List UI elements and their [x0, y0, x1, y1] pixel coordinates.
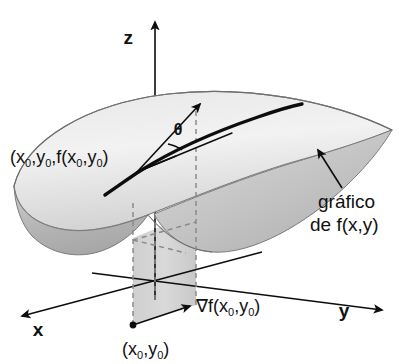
angle-theta-label: θ	[174, 121, 183, 138]
base-point-suffix: )	[163, 339, 169, 359]
gradient-label: ∇f(x0,y0)	[195, 296, 260, 318]
base-point-label: (x0,y0)	[122, 339, 169, 361]
z-axis-label: z	[124, 27, 134, 48]
surface-point-mid1: ,y	[31, 147, 45, 167]
surface-point-suffix: )	[103, 147, 109, 167]
gradient-nabla: ∇f(x	[195, 296, 228, 316]
surface-diagram-svg: z x y θ (x0,y0,f(x0,y0) ∇f(x0,y0) (x0,y0…	[0, 0, 404, 364]
base-point-prefix: (x	[122, 339, 137, 359]
figure-canvas: z x y θ (x0,y0,f(x0,y0) ∇f(x0,y0) (x0,y0…	[0, 0, 404, 364]
graph-caption-line2: de f(x,y)	[310, 214, 379, 235]
surface-point-prefix: (x	[10, 147, 25, 167]
surface-point-mid3: ,y	[82, 147, 96, 167]
gradient-mid1: ,y	[234, 296, 248, 316]
x-axis-label: x	[33, 319, 44, 340]
surface-point-mid2: ,f(x	[51, 147, 76, 167]
y-axis-label: y	[339, 300, 350, 321]
surface-point-label: (x0,y0,f(x0,y0)	[10, 147, 109, 169]
graph-caption-line1: gráfico	[318, 191, 375, 212]
base-point-mid1: ,y	[143, 339, 157, 359]
gradient-suffix: )	[254, 296, 260, 316]
base-point-marker	[130, 322, 137, 329]
